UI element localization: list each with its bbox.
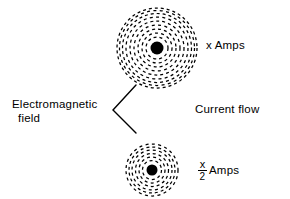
current-fraction: x 2 xyxy=(198,160,207,181)
top-conductor-dot xyxy=(151,42,164,55)
current-flow-label: Current flow xyxy=(195,103,259,116)
em-field-label-line2: field xyxy=(12,111,97,125)
diagram-canvas: Electromagnetic field x Amps Current flo… xyxy=(0,0,290,199)
bottom-current-label: x 2 Amps xyxy=(198,160,239,181)
leader-line xyxy=(113,85,136,133)
electromagnetic-field-label: Electromagnetic field xyxy=(12,97,97,125)
fraction-numerator: x xyxy=(199,160,207,170)
top-field-group xyxy=(117,8,197,88)
bottom-conductor-dot xyxy=(147,165,158,176)
fraction-denominator: 2 xyxy=(199,171,207,181)
em-field-label-line1: Electromagnetic xyxy=(12,98,97,110)
bottom-field-group xyxy=(126,144,178,196)
em-field-leader-bracket xyxy=(113,85,136,133)
top-current-label: x Amps xyxy=(206,39,245,52)
fraction-unit: Amps xyxy=(209,164,239,177)
